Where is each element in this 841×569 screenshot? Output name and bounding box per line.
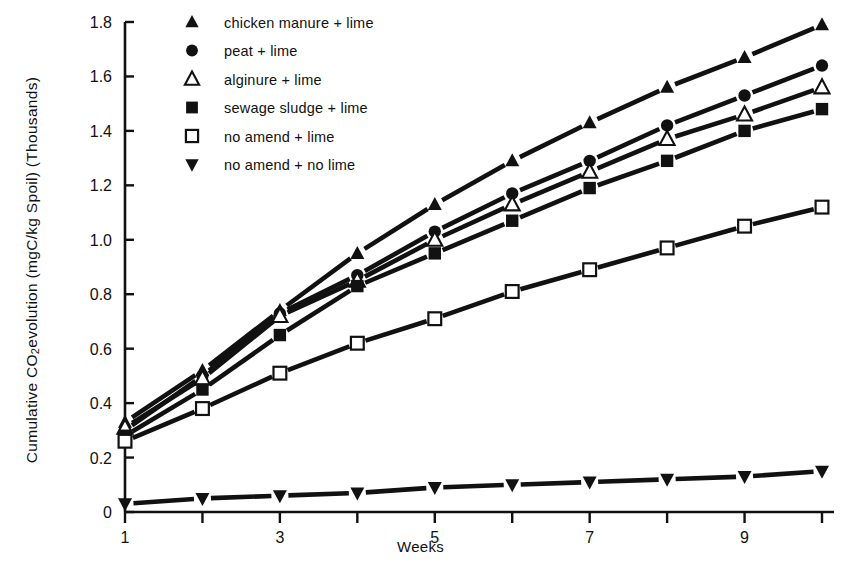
- chart-legend: chicken manure + limepeat + limealginure…: [185, 15, 374, 174]
- series-segment: [520, 272, 581, 289]
- marker-filled-triangle-up: [428, 197, 442, 210]
- legend-item-4: no amend + lime: [186, 129, 335, 145]
- series-segment: [598, 250, 659, 267]
- series-segment: [676, 477, 736, 479]
- marker-open-triangle-up: [505, 196, 520, 210]
- series-segment: [753, 472, 813, 476]
- y-tick-label: 0.4: [90, 395, 112, 412]
- series-segment: [598, 480, 658, 482]
- marker-open-square: [428, 312, 441, 325]
- marker-open-triangle-up: [737, 107, 752, 121]
- marker-open-square: [661, 242, 674, 255]
- series-segment: [288, 346, 350, 370]
- marker-filled-triangle-down: [505, 479, 519, 492]
- series-segment: [753, 111, 814, 128]
- legend-item-5: no amend + no lime: [185, 157, 355, 173]
- marker-open-square: [816, 201, 829, 214]
- marker-filled-circle: [186, 45, 198, 57]
- marker-filled-triangle-down: [185, 159, 198, 171]
- y-tick-label: 1.6: [90, 68, 112, 85]
- series-segment: [210, 377, 272, 405]
- marker-filled-square: [661, 155, 673, 167]
- chart-plot-area: 00.20.40.60.81.01.21.41.61.8 13579 chick…: [0, 0, 841, 569]
- marker-filled-triangle-up: [350, 246, 364, 259]
- series-segment: [365, 321, 426, 340]
- marker-open-square: [119, 435, 132, 448]
- series-segment: [753, 90, 814, 112]
- marker-filled-triangle-down: [428, 482, 442, 495]
- marker-open-square: [273, 367, 286, 380]
- legend-item-3: sewage sludge + lime: [186, 100, 368, 116]
- series-segment: [288, 493, 348, 495]
- series-segment: [521, 482, 581, 484]
- chart-figure: 00.20.40.60.81.01.21.41.61.8 13579 chick…: [0, 0, 841, 569]
- marker-filled-square: [274, 329, 286, 341]
- marker-open-square: [186, 130, 198, 142]
- marker-filled-square: [738, 125, 750, 137]
- marker-filled-triangle-down: [195, 493, 209, 506]
- marker-filled-square: [429, 247, 441, 259]
- marker-open-square: [583, 263, 596, 276]
- series-segment: [443, 485, 503, 487]
- legend-item-1: peat + lime: [186, 43, 297, 59]
- series-segment: [520, 126, 582, 157]
- marker-open-triangle-up: [815, 79, 830, 93]
- marker-filled-triangle-up: [185, 15, 198, 27]
- y-tick-label: 0: [103, 504, 112, 521]
- legend-item-label: no amend + no lime: [224, 157, 355, 173]
- marker-open-square: [506, 285, 519, 298]
- marker-filled-square: [186, 102, 198, 114]
- marker-filled-circle: [816, 59, 828, 71]
- legend-item-label: chicken manure + lime: [224, 15, 374, 31]
- legend-item-2: alginure + lime: [185, 71, 322, 87]
- series-segment: [211, 496, 271, 498]
- series-segment: [366, 488, 426, 492]
- marker-filled-square: [351, 280, 363, 292]
- series-segment: [443, 294, 504, 316]
- y-tick-label: 1.8: [90, 14, 112, 31]
- marker-open-square: [351, 337, 364, 350]
- series-segment: [675, 134, 737, 158]
- marker-filled-triangle-down: [273, 490, 287, 503]
- marker-filled-square: [506, 215, 518, 227]
- series-segment: [752, 69, 814, 93]
- series-5: [118, 466, 829, 512]
- y-tick-label: 0.2: [90, 450, 112, 467]
- series-segment: [442, 165, 505, 200]
- marker-filled-triangle-down: [815, 466, 829, 479]
- series-segment: [753, 209, 814, 224]
- series-segment: [675, 228, 736, 245]
- legend-item-label: alginure + lime: [224, 72, 322, 88]
- legend-item-label: no amend + lime: [224, 129, 335, 145]
- marker-filled-triangle-down: [738, 471, 752, 484]
- legend-item-label: sewage sludge + lime: [224, 100, 368, 116]
- legend-item-0: chicken manure + lime: [185, 15, 373, 31]
- marker-filled-triangle-up: [583, 115, 597, 128]
- marker-filled-triangle-down: [660, 474, 674, 487]
- marker-filled-circle: [738, 89, 750, 101]
- marker-filled-triangle-up: [660, 80, 674, 93]
- marker-filled-triangle-up: [815, 17, 829, 30]
- series-segment: [209, 316, 273, 365]
- y-tick-label: 0.8: [90, 286, 112, 303]
- marker-filled-triangle-up: [505, 153, 519, 166]
- marker-filled-triangle-up: [738, 50, 752, 63]
- x-axis-label: Weeks: [0, 538, 841, 555]
- y-tick-label: 1.4: [90, 123, 112, 140]
- data-series: [118, 17, 830, 511]
- series-segment: [597, 91, 659, 119]
- y-tick-label: 1.0: [90, 232, 112, 249]
- y-tick-label: 1.2: [90, 177, 112, 194]
- axes: [125, 22, 834, 512]
- marker-filled-triangle-down: [350, 487, 364, 500]
- y-tick-label: 0.6: [90, 341, 112, 358]
- marker-open-square: [196, 402, 209, 415]
- series-segment: [752, 28, 814, 54]
- marker-open-triangle-up: [582, 164, 597, 178]
- series-segment: [443, 224, 505, 250]
- marker-open-square: [738, 220, 751, 233]
- marker-open-triangle-up: [660, 131, 675, 145]
- series-segment: [133, 499, 193, 503]
- marker-filled-square: [583, 182, 595, 194]
- marker-filled-triangle-down: [118, 498, 132, 511]
